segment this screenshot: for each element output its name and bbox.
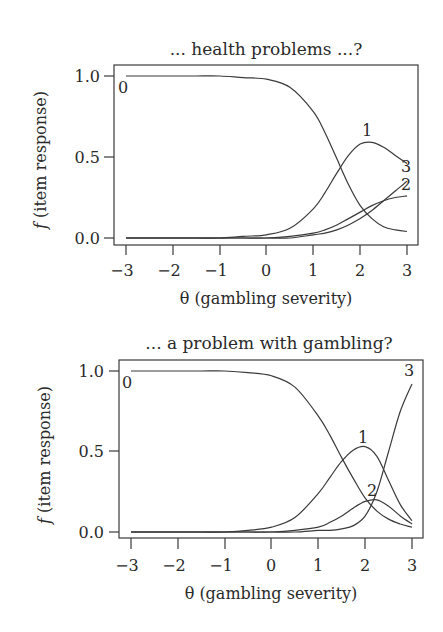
x-tick-label: 0 [266,556,276,575]
y-axis [109,371,119,532]
y-tick-labels: 1.0 0.5 0.0 [79,362,104,542]
y-axis-label: f (item response) [35,386,54,525]
chart-title: ... a problem with gambling? [145,333,392,353]
x-tick-label: 3 [407,556,417,575]
x-tick-label: −3 [115,556,139,575]
x-tick-label: 2 [360,556,370,575]
chart-top: ... health problems ...? 1.0 0.5 0.0 −3 … [31,39,418,308]
x-tick-labels: −3 −2 −1 0 1 2 3 [115,556,417,575]
x-tick-label: 2 [355,261,365,280]
x-tick-label: −2 [157,261,181,280]
chart-title: ... health problems ...? [170,39,363,59]
curve-label-2: 2 [367,481,377,500]
y-tick-label: 0.0 [75,229,100,248]
curve-labels: 0 3 1 2 [122,361,414,500]
curve-label-3: 3 [401,157,411,176]
x-tick-label: 1 [313,556,323,575]
y-axis-label-text: (item response) [35,386,54,518]
x-tick-label: 0 [261,261,271,280]
curve-0 [126,76,407,232]
y-tick-label: 0.5 [75,148,100,167]
x-tick-label: 1 [308,261,318,280]
curve-label-0: 0 [118,78,128,97]
curve-2 [126,196,407,238]
curve-label-1: 1 [358,428,368,447]
y-axis-label-text: (item response) [31,91,50,223]
x-tick-label: −2 [162,556,186,575]
plot-frame [114,65,418,245]
x-axis [126,245,407,255]
y-tick-label: 0.0 [79,523,104,542]
x-axis [131,538,412,549]
x-tick-label: −1 [204,261,228,280]
curve-label-0: 0 [122,373,132,392]
y-tick-label: 1.0 [79,362,104,381]
x-tick-label: −3 [110,261,134,280]
chart-canvas: ... health problems ...? 1.0 0.5 0.0 −3 … [0,0,443,632]
x-tick-label: −1 [209,556,233,575]
curve-1 [126,142,407,238]
curve-label-2: 2 [401,175,411,194]
x-tick-label: 3 [402,261,412,280]
x-tick-labels: −3 −2 −1 0 1 2 3 [110,261,412,280]
y-tick-label: 1.0 [75,67,100,86]
y-axis-label: f (item response) [31,91,50,230]
x-axis-label: θ (gambling severity) [185,584,358,603]
curve-3 [131,384,412,532]
chart-bottom: ... a problem with gambling? 1.0 0.5 0.0… [35,333,423,603]
curve-label-1: 1 [362,121,372,140]
curves [131,371,412,532]
curves [126,76,407,238]
curve-labels: 0 1 3 2 [118,78,411,194]
x-axis-label: θ (gambling severity) [180,289,353,308]
curve-label-3: 3 [404,361,414,380]
y-axis [104,76,114,238]
y-tick-label: 0.5 [79,442,104,461]
y-tick-labels: 1.0 0.5 0.0 [75,67,100,248]
